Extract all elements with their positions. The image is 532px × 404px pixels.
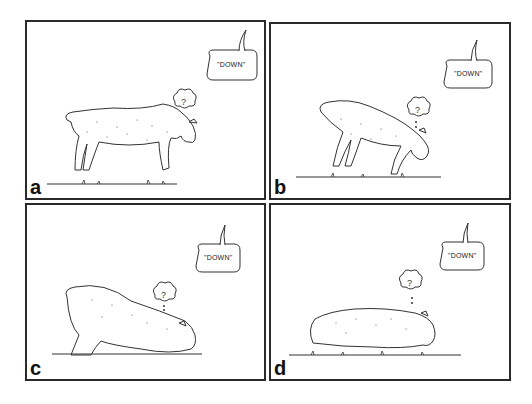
panel-label: b bbox=[274, 177, 286, 197]
svg-text:?: ? bbox=[161, 290, 166, 300]
dog-crouching-illustration: ? bbox=[27, 205, 266, 381]
panel-b: ? "DOWN" b bbox=[269, 22, 511, 200]
dog-standing-illustration: ? bbox=[27, 22, 266, 200]
panel-label: d bbox=[274, 358, 286, 378]
speech-bubble-text: "DOWN" bbox=[217, 61, 245, 68]
panel-c: ? "DOWN" c bbox=[25, 203, 266, 381]
panel-label: c bbox=[30, 358, 41, 378]
speech-bubble-text: "DOWN" bbox=[448, 252, 476, 259]
speech-bubble-text: "DOWN" bbox=[454, 70, 482, 77]
panel-d: ? "DOWN" d bbox=[269, 203, 511, 381]
dog-lying-down-illustration: ? bbox=[271, 205, 511, 381]
svg-text:?: ? bbox=[415, 105, 420, 115]
dog-bowing-illustration: ? bbox=[271, 24, 511, 200]
svg-text:?: ? bbox=[181, 97, 186, 107]
panel-a: ? "DOWN" a bbox=[25, 20, 266, 200]
speech-bubble-text: "DOWN" bbox=[204, 254, 232, 261]
panel-label: a bbox=[30, 177, 41, 197]
svg-text:?: ? bbox=[407, 278, 412, 288]
